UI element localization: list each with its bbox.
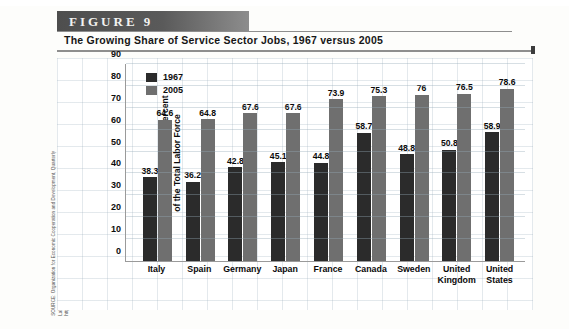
y-gridline: [126, 151, 525, 152]
bar: 76: [415, 95, 429, 261]
figure-number-band: FIGURE 9: [57, 11, 249, 31]
bar-value-label: 75.3: [370, 85, 387, 95]
bar: 73.9: [329, 99, 343, 261]
bar-groups: 38.364.636.264.842.867.645.167.644.873.9…: [126, 64, 525, 261]
legend-label: 2005: [163, 85, 183, 95]
y-gridline: [126, 216, 525, 217]
title-divider: [57, 50, 533, 52]
y-gridline: [126, 172, 525, 173]
y-tick-label: 90: [111, 49, 121, 59]
x-axis-labels: ItalySpainGermanyJapanFranceCanadaSweden…: [125, 262, 525, 288]
legend-label: 1967: [163, 72, 183, 82]
bar: 38.3: [143, 177, 157, 261]
bar-group: 36.264.8: [179, 64, 222, 261]
chart-legend: 19672005: [146, 72, 183, 95]
bar-group: 45.167.6: [264, 64, 307, 261]
x-axis-label: Germany: [221, 262, 264, 288]
x-axis-label: Sweden: [392, 262, 435, 288]
bar-value-label: 78.6: [499, 77, 516, 87]
y-tick-label: 80: [111, 71, 121, 81]
bar-value-label: 38.3: [142, 166, 159, 176]
legend-swatch-icon: [146, 86, 157, 95]
x-axis-label: Japan: [264, 262, 307, 288]
x-axis-label: Spain: [178, 262, 221, 288]
bar-group: 58.775.3: [350, 64, 393, 261]
bar-group: 58.978.6: [478, 64, 521, 261]
x-axis-label: France: [307, 262, 350, 288]
bar: 76.5: [457, 94, 471, 261]
y-gridline: [126, 129, 525, 130]
bar-group: 48.876: [393, 64, 436, 261]
y-gridline: [126, 238, 525, 239]
y-tick-label: 50: [111, 137, 121, 147]
x-axis-label: United States: [478, 262, 521, 288]
bar: 45.1: [271, 162, 285, 261]
bar-value-label: 76.5: [456, 82, 473, 92]
bar: 78.6: [500, 89, 514, 261]
bar: 64.8: [201, 119, 215, 261]
x-axis-label: Italy: [135, 262, 178, 288]
y-tick-label: 10: [111, 224, 121, 234]
y-gridline: [126, 194, 525, 195]
bar: 64.6: [158, 120, 172, 261]
bar: 50.8: [442, 150, 456, 261]
bar: 75.3: [372, 96, 386, 261]
y-tick-label: 30: [111, 180, 121, 190]
bar-value-label: 44.8: [313, 151, 330, 161]
bar: 42.8: [228, 167, 242, 261]
y-gridline: [126, 63, 525, 64]
y-tick-label: 0: [116, 246, 121, 256]
y-gridline: [126, 85, 525, 86]
legend-item: 1967: [146, 72, 183, 82]
figure-band-underline: [57, 31, 512, 32]
bar-group: 50.876.5: [435, 64, 478, 261]
plot-area: 19672005 38.364.636.264.842.867.645.167.…: [125, 64, 525, 262]
x-axis-label: United Kingdom: [435, 262, 478, 288]
x-axis-label: Canada: [349, 262, 392, 288]
legend-item: 2005: [146, 85, 183, 95]
y-tick-label: 20: [111, 202, 121, 212]
y-tick-label: 70: [111, 93, 121, 103]
bar: 58.7: [357, 133, 371, 261]
bar-value-label: 45.1: [270, 151, 287, 161]
bar-value-label: 50.8: [441, 138, 458, 148]
bar: 48.8: [400, 154, 414, 261]
bar-value-label: 42.8: [227, 156, 244, 166]
y-gridline: [126, 107, 525, 108]
figure-number-label: FIGURE 9: [69, 14, 153, 30]
bar-value-label: 64.8: [199, 108, 216, 118]
legend-swatch-icon: [146, 73, 157, 82]
y-tick-label: 60: [111, 115, 121, 125]
figure-title: The Growing Share of Service Sector Jobs…: [64, 34, 383, 46]
bar-group: 44.873.9: [307, 64, 350, 261]
bar-value-label: 64.6: [157, 108, 174, 118]
plot-area-wrapper: Service Sector Jobs as a Percent of the …: [125, 64, 525, 262]
chart-container: Service Sector Jobs as a Percent of the …: [57, 58, 533, 310]
bar-value-label: 73.9: [328, 88, 345, 98]
y-tick-label: 40: [111, 158, 121, 168]
bar-group: 42.867.6: [222, 64, 265, 261]
title-divider-endcap: [531, 46, 535, 54]
bar: 44.8: [314, 163, 328, 261]
figure-page: FIGURE 9 The Growing Share of Service Se…: [0, 0, 569, 329]
